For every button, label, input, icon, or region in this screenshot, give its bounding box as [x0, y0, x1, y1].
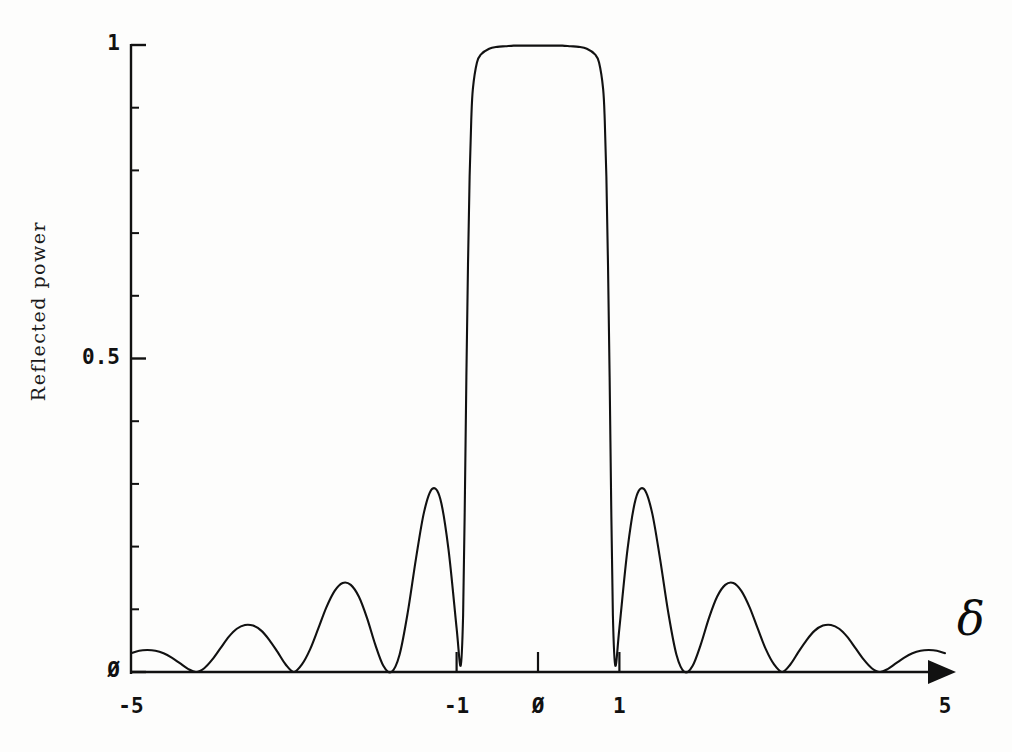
delta-axis-symbol: δ — [957, 596, 985, 642]
plot-svg — [0, 0, 1012, 752]
y-tick-label: 0.5 — [82, 345, 120, 369]
x-tick-label: 1 — [579, 694, 659, 718]
data-curve — [131, 46, 945, 673]
x-tick-label: 5 — [905, 694, 985, 718]
axis-group — [130, 44, 956, 684]
y-tick-label: 1 — [107, 31, 120, 55]
x-tick-label: Ø — [498, 694, 578, 718]
x-tick-label: -5 — [91, 694, 171, 718]
x-tick-group — [457, 652, 620, 672]
x-tick-label: -1 — [417, 694, 497, 718]
x-axis-arrowhead — [928, 660, 956, 684]
y-tick-label: Ø — [107, 658, 120, 682]
y-tick-group — [131, 45, 146, 672]
figure-canvas: Reflected power 10.5Ø -5-1Ø15 δ — [0, 0, 1012, 752]
